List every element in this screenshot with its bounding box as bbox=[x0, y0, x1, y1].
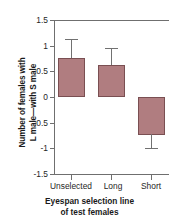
error-bar-cap bbox=[145, 148, 158, 149]
y-tick-mark bbox=[50, 71, 54, 72]
y-tick-label: -1 bbox=[41, 143, 48, 153]
y-tick-mark bbox=[50, 148, 54, 149]
y-tick-label: 0.5 bbox=[36, 66, 48, 76]
error-bar-cap bbox=[105, 48, 118, 49]
y-tick-mark bbox=[50, 20, 54, 21]
y-axis-title: Number of females with L male—with S mal… bbox=[18, 28, 39, 178]
y-tick-label: -0.5 bbox=[34, 118, 48, 128]
bar-long[interactable] bbox=[98, 65, 125, 97]
y-axis-line bbox=[54, 20, 55, 175]
plot-area: 1.5 1 0.5 0 -0.5 -1 -1.5 bbox=[54, 20, 169, 175]
error-bar-line bbox=[111, 48, 112, 66]
x-tick-label-long: Long bbox=[104, 181, 123, 191]
error-bar-line bbox=[151, 134, 152, 149]
zero-reference-line bbox=[54, 20, 169, 21]
x-axis-title: Eyespan selection line of test females bbox=[0, 196, 179, 218]
bar-unselected[interactable] bbox=[58, 58, 85, 97]
y-tick-mark bbox=[50, 46, 54, 47]
x-axis-title-line-2: of test females bbox=[0, 207, 179, 218]
bar-short[interactable] bbox=[138, 97, 165, 135]
x-tick-mark bbox=[111, 175, 112, 180]
error-bar-line bbox=[71, 39, 72, 59]
x-tick-mark bbox=[71, 175, 72, 180]
y-tick-label: -1.5 bbox=[34, 169, 48, 179]
y-tick-mark bbox=[50, 123, 54, 124]
x-tick-mark bbox=[151, 175, 152, 180]
y-tick-label: 1 bbox=[43, 41, 48, 51]
x-tick-label-short: Short bbox=[141, 181, 161, 191]
x-tick-label-unselected: Unselected bbox=[50, 181, 92, 191]
bar-chart-figure: Number of females with L male—with S mal… bbox=[0, 0, 179, 224]
y-tick-label: 1.5 bbox=[36, 15, 48, 25]
y-tick-mark bbox=[50, 97, 54, 98]
y-tick-mark bbox=[50, 174, 54, 175]
y-tick-label: 0 bbox=[43, 92, 48, 102]
y-axis-title-line-2: L male—with S male bbox=[28, 28, 39, 178]
y-axis-title-line-1: Number of females with bbox=[18, 28, 29, 178]
error-bar-cap bbox=[65, 39, 78, 40]
x-axis-title-line-1: Eyespan selection line bbox=[0, 196, 179, 207]
